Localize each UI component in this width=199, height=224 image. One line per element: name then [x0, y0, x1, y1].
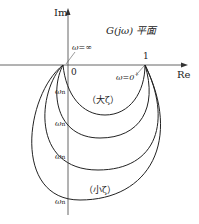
real-axis-arrow-icon: [181, 63, 188, 68]
omega-n-sub: n: [62, 120, 66, 127]
omega-infinity-label: ω=∞: [72, 44, 92, 52]
omega-n-label-4: ωn: [55, 198, 65, 206]
large-zeta-label: （大ζ）: [87, 96, 119, 105]
real-axis-label: Re: [177, 70, 190, 80]
unit-label: 1: [143, 52, 149, 61]
omega-n-label-2: ωn: [55, 120, 65, 128]
omega-n-label-3: ωn: [55, 153, 65, 161]
omega-zero-text: ω=0: [116, 73, 134, 82]
omega-n-label-1: ωn: [55, 88, 65, 96]
omega-zero-label: ω=0+: [116, 71, 139, 82]
omega-infinity-leader: [66, 52, 75, 64]
omega-zero-sup: +: [134, 70, 139, 77]
omega-n-sub: n: [62, 88, 66, 95]
origin-label: 0: [71, 68, 77, 77]
plane-title: G(jω) 平面: [106, 26, 156, 36]
omega-n-sub: n: [62, 153, 66, 160]
imag-axis-label: Im: [54, 8, 67, 18]
omega-n-sub: n: [62, 198, 66, 205]
small-zeta-label: （小ζ）: [84, 186, 116, 195]
